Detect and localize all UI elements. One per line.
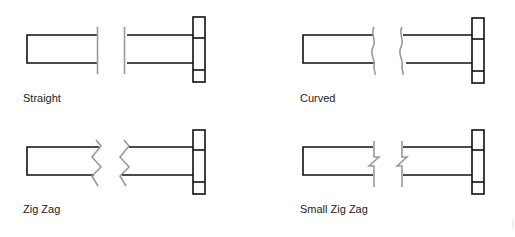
rod-right-piece xyxy=(403,35,472,63)
panel-curved xyxy=(303,18,484,83)
label-curved: Curved xyxy=(300,92,335,105)
break-styles-diagram xyxy=(0,0,515,237)
rod-right-piece xyxy=(403,147,472,175)
rod-left-piece xyxy=(303,35,375,63)
panel-zig-zag xyxy=(27,130,205,194)
bolt-head xyxy=(472,18,484,83)
break-line-curved-right xyxy=(400,27,403,75)
bolt-head xyxy=(193,130,205,194)
label-straight: Straight xyxy=(23,92,61,105)
bolt-head xyxy=(193,17,205,82)
panel-small-zig-zag xyxy=(303,130,484,194)
rod-left-piece xyxy=(27,35,97,63)
panel-straight xyxy=(27,17,205,82)
break-line-small-zigzag-right xyxy=(397,141,407,187)
label-small-zig-zag: Small Zig Zag xyxy=(300,203,368,216)
label-zig-zag: Zig Zag xyxy=(23,203,60,216)
rod-left-piece xyxy=(303,147,373,175)
rod-right-piece xyxy=(122,147,193,175)
rod-left-piece xyxy=(27,147,99,175)
break-line-curved-left xyxy=(372,27,375,75)
bolt-head xyxy=(472,130,484,194)
rod-right-piece xyxy=(127,35,193,63)
break-line-zigzag-right xyxy=(120,140,129,186)
break-line-small-zigzag-left xyxy=(369,141,379,187)
